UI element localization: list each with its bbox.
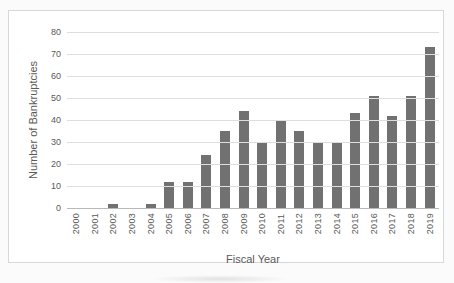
bar-2019: [425, 47, 435, 208]
bar-2016: [369, 96, 379, 208]
bar-2017: [387, 116, 397, 208]
x-tick-label: 2003: [127, 213, 137, 234]
plot-area: [67, 32, 439, 209]
x-tick-slot: 2019: [420, 213, 439, 234]
y-tick-label: 10: [17, 181, 61, 191]
x-tick-slot: 2002: [104, 213, 123, 234]
x-tick-label: 2005: [164, 213, 174, 234]
x-tick-labels: 2000200120022003200420052006200720082009…: [67, 213, 439, 234]
gridline: [67, 120, 439, 121]
x-tick-label: 2010: [257, 213, 267, 234]
x-tick-label: 2016: [369, 213, 379, 234]
y-axis-title: Number of Bankruptcies: [27, 61, 39, 179]
x-tick-slot: 2012: [290, 213, 309, 234]
x-axis-title: Fiscal Year: [67, 253, 439, 265]
x-tick-slot: 2015: [346, 213, 365, 234]
x-tick-slot: 2010: [253, 213, 272, 234]
bar-2002: [108, 204, 118, 208]
y-tick-label: 0: [17, 203, 61, 213]
x-tick-slot: 2003: [123, 213, 142, 234]
y-tick-label: 20: [17, 159, 61, 169]
gridline: [67, 186, 439, 187]
x-tick-label: 2007: [201, 213, 211, 234]
x-tick-label: 2019: [425, 213, 435, 234]
x-tick-label: 2009: [239, 213, 249, 234]
x-tick-slot: 2000: [67, 213, 86, 234]
x-tick-slot: 2017: [383, 213, 402, 234]
x-tick-label: 2004: [146, 213, 156, 234]
x-tick-label: 2008: [220, 213, 230, 234]
x-tick-label: 2006: [183, 213, 193, 234]
x-tick-label: 2011: [276, 213, 286, 234]
y-tick-label: 40: [17, 115, 61, 125]
bar-2014: [332, 142, 342, 208]
y-tick-label: 80: [17, 27, 61, 37]
x-tick-label: 2015: [350, 213, 360, 234]
y-tick-label: 50: [17, 93, 61, 103]
y-tick-label: 30: [17, 137, 61, 147]
y-tick-label: 60: [17, 71, 61, 81]
x-tick-slot: 2018: [402, 213, 421, 234]
gridline: [67, 76, 439, 77]
x-tick-label: 2012: [294, 213, 304, 234]
x-tick-slot: 2004: [141, 213, 160, 234]
y-tick-label: 70: [17, 49, 61, 59]
x-tick-slot: 2006: [179, 213, 198, 234]
bar-2013: [313, 142, 323, 208]
x-tick-slot: 2005: [160, 213, 179, 234]
x-tick-label: 2000: [71, 213, 81, 234]
x-tick-slot: 2008: [216, 213, 235, 234]
x-tick-slot: 2007: [197, 213, 216, 234]
bar-2004: [146, 204, 156, 208]
x-tick-slot: 2014: [327, 213, 346, 234]
x-tick-slot: 2001: [86, 213, 105, 234]
gridline: [67, 164, 439, 165]
chart[interactable]: 01020304050607080 2000200120022003200420…: [8, 10, 444, 263]
bar-2009: [239, 111, 249, 208]
x-tick-label: 2002: [108, 213, 118, 234]
x-tick-label: 2014: [332, 213, 342, 234]
bar-2018: [406, 96, 416, 208]
x-tick-label: 2001: [90, 213, 100, 234]
gridline: [67, 32, 439, 33]
x-tick-slot: 2013: [309, 213, 328, 234]
gridline: [67, 98, 439, 99]
bar-2010: [257, 142, 267, 208]
frame-shadow: [150, 275, 290, 283]
x-tick-slot: 2009: [234, 213, 253, 234]
x-tick-label: 2017: [387, 213, 397, 234]
bar-2015: [350, 113, 360, 208]
gridline: [67, 142, 439, 143]
x-tick-label: 2018: [406, 213, 416, 234]
gridline: [67, 54, 439, 55]
x-tick-slot: 2011: [272, 213, 291, 234]
x-tick-slot: 2016: [365, 213, 384, 234]
x-tick-label: 2013: [313, 213, 323, 234]
